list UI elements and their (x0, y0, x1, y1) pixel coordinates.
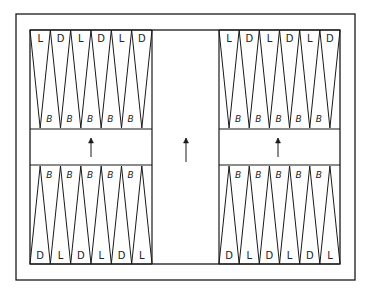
point-label: D (306, 250, 314, 261)
point-label: L (37, 33, 43, 44)
gap-label: B (316, 170, 322, 180)
board-point (320, 30, 340, 128)
quadrant-top-right: LDLDLDBBBBB (219, 30, 340, 128)
gap-label: B (107, 170, 113, 180)
quadrant-top-left: LDLDLDBBBBB (30, 30, 152, 128)
point-label: L (98, 250, 104, 261)
gap-label: B (67, 114, 73, 124)
point-label: D (245, 33, 253, 44)
backgammon-board-diagram: LDLDLDBBBBB LDLDLDBBBBB DLDLDLBBBBB DLDL… (0, 0, 374, 294)
gap-label: B (46, 170, 52, 180)
point-label: L (246, 250, 252, 261)
quadrant-bottom-right: DLDLDLBBBBB (219, 166, 340, 264)
gap-label: B (255, 114, 261, 124)
bar-arrow-icon (184, 138, 189, 162)
gap-label: B (316, 114, 322, 124)
board-point (132, 30, 152, 128)
point-label: D (286, 33, 294, 44)
point-label: L (287, 250, 293, 261)
point-label: D (225, 250, 233, 261)
gap-label: B (87, 170, 93, 180)
gap-label: B (255, 170, 261, 180)
point-label: L (226, 33, 232, 44)
gap-label: B (296, 114, 302, 124)
point-label: L (327, 250, 333, 261)
gap-label: B (107, 114, 113, 124)
point-label: D (118, 250, 126, 261)
point-label: D (97, 33, 105, 44)
point-label: D (57, 33, 65, 44)
gap-label: B (275, 114, 281, 124)
gap-label: B (128, 114, 134, 124)
point-label: L (119, 33, 125, 44)
gap-label: B (296, 170, 302, 180)
left-strip-arrow-icon (89, 138, 94, 157)
point-label: L (307, 33, 313, 44)
point-label: L (78, 33, 84, 44)
gap-label: B (67, 170, 73, 180)
gap-label: B (235, 114, 241, 124)
gap-label: B (46, 114, 52, 124)
inner-board (30, 30, 340, 264)
gap-label: B (87, 114, 93, 124)
point-label: D (326, 33, 334, 44)
point-label: D (266, 250, 274, 261)
point-label: D (36, 250, 44, 261)
middle-strip (30, 30, 340, 264)
point-label: D (77, 250, 85, 261)
point-label: L (139, 250, 145, 261)
point-label: L (267, 33, 273, 44)
point-label: D (138, 33, 146, 44)
gap-label: B (235, 170, 241, 180)
gap-label: B (275, 170, 281, 180)
right-strip-arrow-icon (276, 138, 281, 157)
quadrant-bottom-left: DLDLDLBBBBB (30, 166, 152, 264)
point-label: L (58, 250, 64, 261)
gap-label: B (128, 170, 134, 180)
direction-arrows (89, 138, 281, 162)
